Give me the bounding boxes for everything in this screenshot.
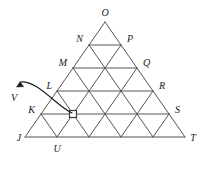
vertex-label-V: V (11, 92, 19, 103)
vertex-label-K: K (27, 104, 36, 115)
vertex-label-J: J (17, 132, 22, 143)
vertex-label-N: N (75, 33, 84, 44)
marked-point-square-icon (70, 111, 77, 118)
vertex-label-U: U (53, 143, 61, 154)
horizontal-lines (25, 45, 185, 137)
edge-Q-d2 (89, 68, 137, 137)
edge-K-d4 (41, 114, 57, 137)
vertex-label-Q: Q (143, 57, 151, 68)
edge-O-T (105, 22, 185, 137)
edge-S-d4 (153, 114, 169, 137)
vertex-labels: O N P M Q L R K S J U T V (11, 7, 197, 154)
vertex-label-S: S (175, 104, 180, 115)
vertex-label-T: T (190, 132, 197, 143)
triangle-lattice-svg: O N P M Q L R K S J U T V (0, 0, 206, 172)
vertex-label-L: L (45, 80, 52, 91)
vertex-label-R: R (158, 80, 165, 91)
edge-O-J (25, 22, 105, 137)
vertex-label-P: P (126, 33, 133, 44)
edge-M-d2 (73, 68, 121, 137)
vertex-label-O: O (101, 7, 108, 18)
triangular-grid-figure: O N P M Q L R K S J U T V (0, 0, 206, 172)
callout-arrow-head-icon (17, 82, 24, 87)
vertex-label-M: M (58, 57, 68, 68)
